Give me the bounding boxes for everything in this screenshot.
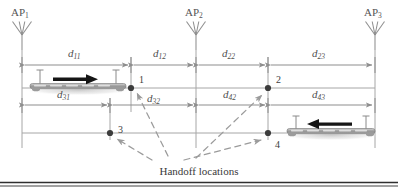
dimension-label-d23: d23 xyxy=(312,48,325,59)
ap-label-3: AP3 xyxy=(364,7,382,18)
dimension-label-d42: d42 xyxy=(223,89,236,100)
direction-arrow-left-icon xyxy=(307,119,352,129)
handoff-locations-figure: AP1 AP2 AP3 d11 d12 d22 d23 d31 d32 d42 … xyxy=(0,0,398,194)
handoff-dot-3 xyxy=(107,130,113,136)
dimension-label-d11: d11 xyxy=(68,48,80,59)
dimension-label-d12: d12 xyxy=(153,48,166,59)
dimension-label-d22: d22 xyxy=(222,48,235,59)
dimension-label-d43: d43 xyxy=(312,89,325,100)
antenna-icon-ap1 xyxy=(13,22,32,51)
handoff-pointer-arrows xyxy=(117,93,262,160)
handoff-dot-4 xyxy=(265,130,271,136)
dimension-label-d11-sub: 11 xyxy=(74,52,81,61)
ap-label-1-sub: 1 xyxy=(25,11,29,20)
dimension-label-d31-text: d xyxy=(57,88,63,100)
handoff-label-2: 2 xyxy=(276,75,281,85)
ap-label-2: AP2 xyxy=(185,7,203,18)
handoff-label-3: 3 xyxy=(118,125,123,135)
dimension-label-d42-sub: 42 xyxy=(229,93,237,102)
dimension-label-d32-sub: 32 xyxy=(153,97,161,106)
dimension-label-d42-text: d xyxy=(223,88,229,100)
antenna-icon-ap3 xyxy=(366,22,385,51)
ap-label-2-sub: 2 xyxy=(199,11,203,20)
dimension-label-d12-text: d xyxy=(153,47,159,59)
train-upper xyxy=(24,70,132,96)
dimension-label-d31-sub: 31 xyxy=(63,93,71,102)
antenna-icon-ap2 xyxy=(187,22,206,51)
ap-label-1: AP1 xyxy=(11,7,29,18)
dimension-label-d32-text: d xyxy=(147,92,153,104)
dimension-label-d22-sub: 22 xyxy=(228,52,236,61)
handoff-dot-1 xyxy=(128,85,134,91)
dimension-label-d22-text: d xyxy=(222,47,228,59)
figure-caption: Handoff locations xyxy=(0,166,398,177)
handoff-dot-2 xyxy=(265,85,271,91)
bottom-rule xyxy=(0,183,398,187)
dimension-label-d31: d31 xyxy=(57,89,70,100)
ap-label-3-sub: 3 xyxy=(378,11,382,20)
pointer-arrow-to-3 xyxy=(117,139,152,160)
dimension-label-d11-text: d xyxy=(68,47,74,59)
dimension-label-d43-sub: 43 xyxy=(318,93,326,102)
train-lower xyxy=(281,116,381,141)
ap-label-1-text: AP xyxy=(11,6,25,18)
dimension-label-d23-text: d xyxy=(312,47,318,59)
handoff-label-4: 4 xyxy=(275,140,280,150)
dimension-label-d12-sub: 12 xyxy=(159,52,167,61)
ap-label-2-text: AP xyxy=(185,6,199,18)
dimension-label-d23-sub: 23 xyxy=(318,52,326,61)
handoff-label-1: 1 xyxy=(139,75,144,85)
direction-arrow-right-icon xyxy=(53,74,98,84)
dimension-label-d43-text: d xyxy=(312,88,318,100)
ap-label-3-text: AP xyxy=(364,6,378,18)
dimension-label-d32: d32 xyxy=(147,93,160,104)
